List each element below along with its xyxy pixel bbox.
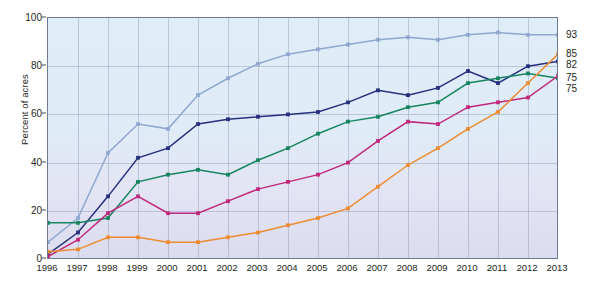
series-line	[48, 76, 558, 257]
series-marker	[526, 72, 530, 76]
series-marker	[436, 100, 440, 104]
series-marker	[466, 33, 470, 37]
y-axis-tick-mark	[42, 113, 46, 114]
series-marker	[256, 231, 260, 235]
y-axis-tick-label: 20	[0, 204, 42, 215]
series-marker	[286, 52, 290, 56]
series-marker	[496, 31, 500, 35]
series-marker	[196, 122, 200, 126]
series-marker	[196, 168, 200, 172]
series-marker	[226, 235, 230, 239]
series-marker	[256, 158, 260, 162]
series-marker	[226, 199, 230, 203]
series-marker	[466, 81, 470, 85]
series-marker	[526, 33, 530, 37]
series-marker	[166, 240, 170, 244]
series-marker	[346, 43, 350, 47]
y-axis-tick-mark	[42, 17, 46, 18]
series-end-value: 85	[566, 48, 577, 59]
series-marker	[196, 240, 200, 244]
series-marker	[436, 86, 440, 90]
plot-area	[47, 17, 558, 259]
series-marker	[556, 74, 558, 78]
y-axis-tick-label: 100	[0, 12, 42, 23]
series-marker	[466, 69, 470, 73]
series-end-value: 75	[566, 72, 577, 83]
y-axis-tick-label: 60	[0, 108, 42, 119]
series-marker	[47, 240, 50, 244]
series-marker	[376, 139, 380, 143]
series-marker	[136, 194, 140, 198]
series-marker	[406, 105, 410, 109]
series-marker	[496, 81, 500, 85]
series-marker	[376, 185, 380, 189]
series-marker	[196, 211, 200, 215]
series-marker	[376, 38, 380, 42]
y-axis-tick-mark	[42, 209, 46, 210]
y-axis-tick-label: 40	[0, 156, 42, 167]
series-marker	[76, 231, 80, 235]
series-marker	[496, 76, 500, 80]
series-lines	[48, 18, 558, 259]
series-marker	[166, 146, 170, 150]
series-marker	[47, 255, 50, 259]
series-marker	[526, 96, 530, 100]
y-axis-tick-mark	[42, 258, 46, 259]
series-marker	[496, 110, 500, 114]
series-marker	[106, 235, 110, 239]
series-marker	[406, 35, 410, 39]
series-marker	[106, 194, 110, 198]
series-marker	[76, 216, 80, 220]
series-marker	[286, 146, 290, 150]
series-line	[48, 73, 558, 222]
x-axis-tick-label: 2013	[535, 262, 579, 273]
series-marker	[346, 206, 350, 210]
series-end-value: 93	[566, 28, 577, 39]
y-axis-tick-mark	[42, 65, 46, 66]
series-marker	[106, 211, 110, 215]
series-marker	[286, 223, 290, 227]
series-line	[48, 54, 558, 252]
series-marker	[76, 238, 80, 242]
series-marker	[166, 211, 170, 215]
series-marker	[316, 173, 320, 177]
series-marker	[136, 180, 140, 184]
series-marker	[346, 100, 350, 104]
series-marker	[166, 127, 170, 131]
series-marker	[526, 81, 530, 85]
series-marker	[316, 110, 320, 114]
series-marker	[346, 161, 350, 165]
series-marker	[76, 221, 80, 225]
y-axis-tick-mark	[42, 161, 46, 162]
series-marker	[136, 235, 140, 239]
series-marker	[47, 221, 50, 225]
series-marker	[166, 173, 170, 177]
chart-root: Percent of acres 020406080100 1996199719…	[0, 0, 605, 292]
series-marker	[376, 115, 380, 119]
series-marker	[316, 216, 320, 220]
series-marker	[47, 250, 50, 254]
series-marker	[256, 187, 260, 191]
series-marker	[436, 38, 440, 42]
series-marker	[496, 100, 500, 104]
series-marker	[256, 115, 260, 119]
series-marker	[316, 47, 320, 51]
series-marker	[196, 93, 200, 97]
series-marker	[466, 127, 470, 131]
series-marker	[286, 180, 290, 184]
y-axis-tick-label: 80	[0, 60, 42, 71]
series-marker	[226, 117, 230, 121]
series-end-value: 82	[566, 59, 577, 70]
series-marker	[466, 105, 470, 109]
series-marker	[136, 156, 140, 160]
series-marker	[106, 216, 110, 220]
series-marker	[286, 113, 290, 117]
series-line	[48, 32, 558, 242]
series-marker	[256, 62, 260, 66]
series-marker	[526, 64, 530, 68]
series-marker	[106, 151, 110, 155]
series-marker	[406, 163, 410, 167]
series-marker	[76, 247, 80, 251]
series-end-value: 75	[566, 83, 577, 94]
series-marker	[136, 122, 140, 126]
